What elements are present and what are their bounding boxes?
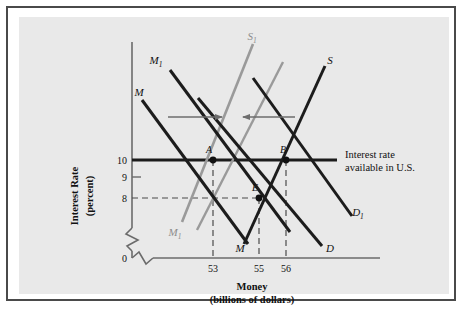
x-axis-break-icon xyxy=(132,252,153,264)
economics-money-market-chart: 10 9 8 0 53 55 56 xyxy=(0,0,468,333)
axis-titles: Interest Rate (percent) Money (billions … xyxy=(69,166,295,306)
point-b-label: B xyxy=(280,144,286,155)
annotation-line-2: available in U.S. xyxy=(345,162,415,173)
interest-rate-annotation: Interest rate available in U.S. xyxy=(345,149,415,173)
point-b-marker xyxy=(283,157,290,164)
dark-curves xyxy=(142,66,352,246)
curve-label-d: D xyxy=(325,242,334,254)
curve-label-m1-upper: M1 xyxy=(149,54,163,69)
annotation-line-1: Interest rate xyxy=(345,149,395,160)
axis-lines xyxy=(126,42,380,264)
origin-label: 0 xyxy=(122,253,127,264)
point-e-label: E xyxy=(251,182,258,193)
curve-label-d1-sub: 1 xyxy=(360,212,364,221)
y-axis-break-icon xyxy=(126,228,138,251)
curve-label-m1-sub: 1 xyxy=(159,60,163,69)
point-a-marker xyxy=(210,157,217,164)
x-tick-label-56: 56 xyxy=(281,263,291,274)
figure-root: 10 9 8 0 53 55 56 xyxy=(0,0,468,333)
y-axis-title-line-2: (percent) xyxy=(84,175,96,216)
point-a-label: A xyxy=(205,144,213,155)
curve-label-s: S xyxy=(327,54,333,66)
x-axis-title-line-1: Money xyxy=(237,281,269,292)
curve-label-d1: D1 xyxy=(351,206,364,221)
curve-label-d1-base: D xyxy=(351,206,360,218)
curve-d-demand-original xyxy=(198,98,322,246)
curve-label-s1-sub: 1 xyxy=(253,36,257,45)
y-tick-label-10: 10 xyxy=(117,155,127,166)
x-axis-ticks: 53 55 56 xyxy=(208,263,291,274)
x-tick-label-53: 53 xyxy=(208,263,218,274)
curve-label-m-lower: M xyxy=(234,242,245,254)
y-tick-label-9: 9 xyxy=(122,172,127,183)
y-tick-label-8: 8 xyxy=(122,193,127,204)
x-tick-label-55: 55 xyxy=(254,263,264,274)
curve-label-s1: S1 xyxy=(247,30,256,45)
curve-m-money-original xyxy=(142,100,248,244)
curve-d1-demand-shifted xyxy=(253,78,352,216)
x-axis-title-line-2: (billions of dollars) xyxy=(210,294,295,306)
curve-label-m-upper: M xyxy=(133,86,144,98)
y-axis-title-line-1: Interest Rate xyxy=(69,166,80,225)
curve-label-m1-lower-sub: 1 xyxy=(178,232,182,241)
curve-label-m1-lower: M1 xyxy=(168,226,182,241)
curve-labels: M1 M S1 S D1 D M1 M xyxy=(133,30,363,254)
point-e-marker xyxy=(256,195,263,202)
curve-s-supply-original xyxy=(244,66,325,244)
